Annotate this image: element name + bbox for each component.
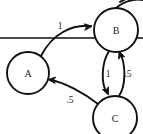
edge-c-to-a xyxy=(50,80,98,104)
node-c[interactable]: C xyxy=(93,96,137,134)
node-label-a: A xyxy=(24,68,32,79)
edge-label-c-to-b: .5 xyxy=(124,69,131,79)
node-label-b: B xyxy=(113,25,120,36)
diagram-svg: ABC 11.5.5 xyxy=(0,0,143,134)
node-a[interactable]: A xyxy=(7,52,49,94)
diagram-canvas: ABC 11.5.5 xyxy=(0,0,143,134)
edge-label-c-to-a: .5 xyxy=(66,95,73,105)
edge-label-a-to-b: 1 xyxy=(58,21,63,31)
edge-label-b-to-c: 1 xyxy=(106,69,111,79)
node-b[interactable]: B xyxy=(94,8,138,52)
node-label-c: C xyxy=(112,113,119,124)
edge-a-to-b xyxy=(41,26,91,56)
arrowhead-a-to-b xyxy=(84,23,92,30)
